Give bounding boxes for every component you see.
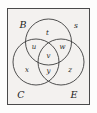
label-set-b: B: [19, 19, 27, 30]
label-region-v: v: [47, 52, 51, 60]
venn-diagram-canvas: B C E s t u w v x y z: [0, 0, 97, 113]
venn-diagram-figure: B C E s t u w v x y z: [0, 0, 97, 113]
label-region-u: u: [32, 43, 37, 51]
label-universe: s: [74, 21, 78, 30]
label-region-t: t: [46, 29, 49, 37]
label-region-x: x: [25, 66, 29, 74]
label-set-e: E: [70, 89, 78, 100]
label-set-c: C: [17, 89, 25, 100]
label-region-w: w: [60, 43, 66, 51]
label-region-z: z: [67, 66, 72, 74]
